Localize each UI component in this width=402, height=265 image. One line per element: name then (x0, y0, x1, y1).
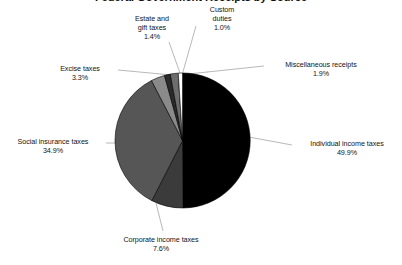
label-text-line2: gift taxes (121, 23, 183, 32)
slice-label-excise-taxes: Excise taxes 3.3% (47, 64, 113, 82)
leader-line-misc (186, 66, 265, 74)
label-text-line1: Miscellaneous receipts (266, 60, 376, 69)
label-text-line2: duties (196, 14, 248, 23)
label-value: 1.9% (266, 69, 376, 78)
label-text-line1: Excise taxes (47, 64, 113, 73)
pie-chart-canvas: Individual income taxes 49.9%Corporate i… (0, 0, 402, 265)
label-value: 49.9% (296, 148, 398, 157)
label-text-line1: Estate and (121, 14, 183, 23)
slice-label-estate-and-gift-taxes: Estate and gift taxes 1.4% (121, 14, 183, 42)
label-text-line1: Corporate income taxes (109, 235, 213, 244)
leader-line-corporate (156, 203, 163, 231)
slice-label-custom-duties: Custom duties 1.0% (196, 5, 248, 33)
slice-label-corporate-income-taxes: Corporate income taxes 7.6% (109, 235, 213, 253)
label-value: 34.9% (3, 146, 103, 155)
leader-line-custom (182, 26, 196, 74)
pie-chart-figure: Federal Government Receipts by Source In… (0, 0, 402, 265)
label-value: 3.3% (47, 73, 113, 82)
slice-label-individual-income-taxes: Individual income taxes 49.9% (296, 139, 398, 157)
slice-label-miscellaneous-receipts: Miscellaneous receipts 1.9% (266, 60, 376, 78)
pie-slices-group: Individual income taxes 49.9%Corporate i… (115, 73, 250, 208)
label-text-line1: Individual income taxes (296, 139, 398, 148)
label-text-line1: Social insurance taxes (3, 137, 103, 146)
pie-slice-individual-income-taxes[interactable]: Individual income taxes 49.9% (183, 73, 251, 208)
label-text-line1: Custom (196, 5, 248, 14)
label-value: 1.0% (196, 23, 248, 32)
label-value: 1.4% (121, 32, 183, 41)
leader-line-estate (169, 42, 181, 75)
label-value: 7.6% (109, 244, 213, 253)
slice-label-social-insurance-taxes: Social insurance taxes 34.9% (3, 137, 103, 155)
